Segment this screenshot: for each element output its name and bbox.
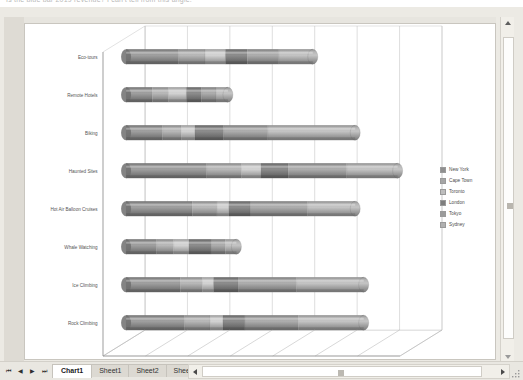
sheet-tab-sheet1[interactable]: Sheet1 — [91, 364, 129, 377]
legend-label: Tokyo — [449, 211, 461, 216]
legend-swatch-icon — [440, 189, 446, 195]
svg-text:Eco-tours: Eco-tours — [78, 55, 98, 60]
legend-item-sydney[interactable]: Sydney — [440, 219, 500, 230]
legend-label: Toronto — [449, 189, 465, 194]
vertical-scrollbar-thumb[interactable] — [503, 37, 514, 339]
legend-item-london[interactable]: London — [440, 197, 500, 208]
excel-window: Eco-toursRemote HotelsBikingHaunted Site… — [0, 7, 523, 380]
stacked-cylinder-bar-chart[interactable]: Eco-toursRemote HotelsBikingHaunted Site… — [25, 24, 497, 361]
vertical-scrollbar[interactable] — [500, 17, 514, 362]
scrollbar-grip-icon — [507, 203, 513, 209]
horizontal-scrollbar-thumb[interactable] — [202, 366, 482, 377]
svg-text:Rock Climbing: Rock Climbing — [68, 321, 98, 326]
legend-swatch-icon — [440, 167, 446, 173]
svg-text:Haunted Sites: Haunted Sites — [69, 169, 99, 174]
triangle-up-icon — [505, 21, 511, 25]
legend-swatch-icon — [440, 211, 446, 217]
horizontal-scrollbar[interactable] — [188, 364, 510, 379]
sheet-tab-chart1[interactable]: Chart1 — [52, 364, 92, 378]
legend-label: Cape Town — [449, 178, 472, 183]
hscrollbar-grip-icon — [338, 370, 344, 376]
window-left-gutter — [4, 17, 24, 362]
legend-item-toronto[interactable]: Toronto — [440, 186, 500, 197]
legend-swatch-icon — [440, 222, 446, 228]
legend-item-tokyo[interactable]: Tokyo — [440, 208, 500, 219]
nav-next-sheet-icon[interactable]: ▶ — [28, 366, 37, 376]
legend-label: London — [449, 200, 465, 205]
sheet-nav-buttons[interactable]: ⏮ ◀ ▶ ⏭ — [4, 366, 49, 376]
legend-swatch-icon — [440, 178, 446, 184]
svg-text:Hot Air Balloon Cruises: Hot Air Balloon Cruises — [50, 207, 98, 212]
nav-first-sheet-icon[interactable]: ⏮ — [4, 366, 13, 376]
legend-label: New York — [449, 167, 469, 172]
legend-label: Sydney — [449, 222, 465, 227]
sheet-tab-sheet2[interactable]: Sheet2 — [128, 364, 166, 377]
svg-text:Ice Climbing: Ice Climbing — [72, 283, 98, 288]
hscroll-right-button[interactable] — [497, 366, 509, 377]
legend-item-new-york[interactable]: New York — [440, 164, 500, 175]
resize-grip-icon[interactable] — [512, 370, 521, 379]
chart-legend: New YorkCape TownTorontoLondonTokyoSydne… — [440, 164, 500, 230]
triangle-left-icon — [193, 369, 197, 375]
triangle-down-icon — [505, 355, 511, 359]
clipped-top-text-label: Is the blue bar 2019 revenue? I can't te… — [6, 0, 192, 3]
svg-text:Remote Hotels: Remote Hotels — [67, 93, 98, 98]
hscroll-left-button[interactable] — [189, 366, 201, 377]
chart-sheet[interactable]: Eco-toursRemote HotelsBikingHaunted Site… — [24, 23, 496, 360]
nav-last-sheet-icon[interactable]: ⏭ — [40, 366, 49, 376]
clipped-top-text: Is the blue bar 2019 revenue? I can't te… — [0, 0, 523, 7]
legend-swatch-icon — [440, 200, 446, 206]
legend-item-cape-town[interactable]: Cape Town — [440, 175, 500, 186]
sheet-tab-bar: ⏮ ◀ ▶ ⏭ Chart1Sheet1Sheet2Sheet3⛶ — [0, 361, 523, 380]
chart-area[interactable]: Eco-toursRemote HotelsBikingHaunted Site… — [25, 24, 497, 361]
nav-prev-sheet-icon[interactable]: ◀ — [16, 366, 25, 376]
svg-text:Biking: Biking — [85, 131, 98, 136]
scroll-up-button[interactable] — [501, 17, 514, 28]
svg-text:Whale Watching: Whale Watching — [64, 245, 98, 250]
triangle-right-icon — [501, 369, 505, 375]
